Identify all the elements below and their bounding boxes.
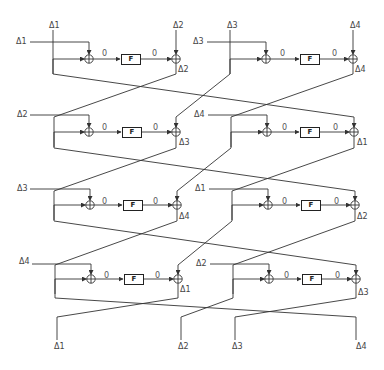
xor-icon [351,201,359,209]
round1-right-input-label: Δ3 [193,38,204,46]
round1-left-zero-in: 0 [102,50,107,58]
xor-icon [352,275,360,283]
xor-icon [173,201,181,209]
round2-right-zero-out: 0 [333,124,338,132]
round3-left-input-label: Δ3 [17,185,28,193]
wire [233,209,355,294]
round1-left-f-box: F [121,54,141,65]
round3-left-zero-out: 0 [153,198,158,206]
round2-left-f-box: F [122,127,142,138]
xor-icon [85,128,93,136]
wire [55,279,356,340]
xor-icon [86,201,94,209]
round3-left-f-box: F [123,200,143,211]
wire [55,209,177,294]
round4-left-output-label: Δ1 [180,286,191,294]
round2-left-zero-in: 0 [102,124,107,132]
f-label: F [309,201,314,209]
round2-right-f-box: F [300,127,320,138]
f-label: F [308,55,313,63]
round2-left-output-label: Δ3 [179,139,190,147]
round2-left-input-label: Δ2 [17,111,28,119]
xor-icon [87,275,95,283]
xor-icon [262,55,270,63]
bottom-label-3: Δ3 [232,343,243,351]
bottom-label-4: Δ4 [356,343,367,351]
wire [235,283,356,340]
f-label: F [308,128,313,136]
f-label: F [132,275,137,283]
xor-icon [263,128,271,136]
bottom-label-2: Δ2 [178,343,189,351]
round4-left-zero-out: 0 [155,272,160,280]
wire [54,63,176,147]
wires [0,0,384,370]
round4-left-input-label: Δ4 [19,258,30,266]
bottom-label-1: Δ1 [54,343,65,351]
f-label: F [129,55,134,63]
xor-icon [265,275,273,283]
round1-left-zero-out: 0 [152,50,157,58]
top-label-2: Δ2 [173,22,184,30]
round3-right-input-label: Δ1 [195,185,206,193]
round1-left-output-label: Δ2 [178,66,189,74]
xor-icon [349,55,357,63]
wire [232,136,354,220]
wire [54,136,176,220]
top-label-4: Δ4 [350,22,361,30]
round2-right-zero-in: 0 [282,124,287,132]
round4-right-input-label: Δ2 [196,260,207,268]
wire [57,283,178,340]
round4-right-output-label: Δ3 [358,289,369,297]
round1-right-zero-in: 0 [280,50,285,58]
round2-right-input-label: Δ4 [194,111,205,119]
xor-icon [85,55,93,63]
xor-icon [350,128,358,136]
round4-right-zero-in: 0 [284,272,289,280]
top-label-1: Δ1 [49,22,60,30]
round2-right-output-label: Δ1 [357,139,368,147]
round1-right-zero-out: 0 [332,50,337,58]
top-label-3: Δ3 [227,22,238,30]
round3-left-zero-in: 0 [102,198,107,206]
wire [231,63,353,147]
round4-left-f-box: F [124,274,144,285]
round3-right-output-label: Δ2 [357,213,368,221]
round3-left-output-label: Δ4 [179,213,190,221]
round1-right-output-label: Δ4 [355,66,366,74]
round4-left-zero-in: 0 [104,272,109,280]
xor-icon [264,201,272,209]
round1-left-input-label: Δ1 [16,38,27,46]
f-label: F [310,275,315,283]
round4-right-zero-out: 0 [335,272,340,280]
round3-right-zero-in: 0 [282,198,287,206]
round1-right-f-box: F [300,54,320,65]
xor-icon [172,55,180,63]
round3-right-zero-out: 0 [334,198,339,206]
round3-right-f-box: F [301,200,321,211]
round2-left-zero-out: 0 [153,124,158,132]
round4-right-f-box: F [302,274,322,285]
feistel-diagram: Δ1 Δ2 Δ3 Δ4 Δ1 Δ2 Δ3 Δ4 Δ1 0 F 0 Δ2 Δ3 0… [0,0,384,370]
xor-icon [174,275,182,283]
xor-icon [172,128,180,136]
f-label: F [130,128,135,136]
f-label: F [131,201,136,209]
